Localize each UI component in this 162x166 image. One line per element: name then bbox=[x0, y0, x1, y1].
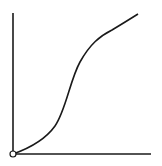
diagram-canvas bbox=[0, 0, 162, 166]
s-curve bbox=[13, 14, 138, 154]
growth-curve-diagram bbox=[0, 0, 162, 166]
origin-marker-icon bbox=[10, 151, 16, 157]
